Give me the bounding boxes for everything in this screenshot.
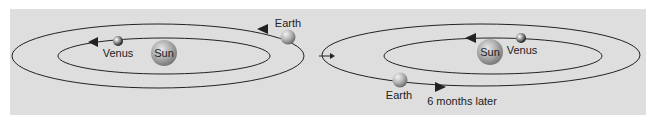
earth-direction-arrow [435,82,446,92]
venus-direction-arrow [465,33,476,43]
earth-label: Earth [275,17,301,29]
caption: 6 months later [427,95,497,107]
venus-direction-arrow [88,37,98,47]
venus-label: Venus [507,44,538,56]
venus-icon [113,36,123,46]
sun-label: Sun [154,47,174,59]
earth-icon [281,30,296,45]
venus-label: Venus [103,47,134,59]
orbit-diagram: Sun Venus Earth Sun Venus Earth 6 months… [0,0,653,120]
right-system: Sun Venus Earth 6 months later [322,24,640,107]
transition-arrow [319,53,335,59]
sun-label: Sun [480,46,500,58]
earth-label: Earth [386,89,412,101]
earth-icon [393,73,408,88]
left-system: Sun Venus Earth [12,17,304,88]
venus-icon [516,33,526,43]
